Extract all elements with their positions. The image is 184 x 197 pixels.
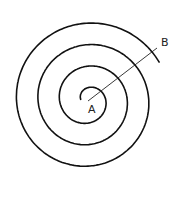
radius-line-a-b [88,48,157,101]
label-b: B [161,36,169,49]
label-a: A [88,103,96,116]
spiral-diagram: A B [0,0,184,197]
spiral-curve [16,23,159,166]
